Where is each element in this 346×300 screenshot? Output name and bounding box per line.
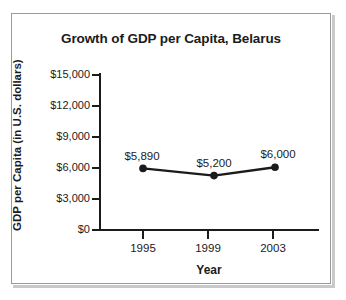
y-tick-9000 — [92, 136, 100, 138]
x-tick-1995 — [142, 231, 144, 239]
y-tick-label-3000: $3,000 — [30, 192, 90, 204]
x-axis-title: Year — [99, 263, 319, 277]
y-tick-12000 — [92, 105, 100, 107]
y-axis-line — [99, 73, 101, 231]
y-axis-title: GDP per Capita (in U.S. dollars) — [11, 71, 23, 231]
data-label-1999: $5,200 — [179, 157, 249, 169]
x-tick-label-1995: 1995 — [118, 242, 168, 254]
data-label-2003: $6,000 — [243, 148, 313, 160]
y-tick-label-0: $0 — [30, 223, 90, 235]
frame-shadow-bottom — [13, 285, 334, 288]
y-tick-label-6000: $6,000 — [30, 161, 90, 173]
frame-shadow-right — [332, 15, 335, 288]
y-tick-6000 — [92, 167, 100, 169]
y-tick-0 — [92, 229, 100, 231]
data-label-1995: $5,890 — [107, 150, 177, 162]
y-tick-label-9000: $9,000 — [30, 130, 90, 142]
x-axis-line — [99, 229, 319, 231]
chart-title: Growth of GDP per Capita, Belarus — [11, 31, 331, 46]
x-tick-label-1999: 1999 — [183, 242, 233, 254]
chart-figure: Growth of GDP per Capita, Belarus $0 $3,… — [0, 0, 346, 300]
y-tick-label-12000: $12,000 — [30, 99, 90, 111]
y-tick-3000 — [92, 198, 100, 200]
y-tick-label-15000: $15,000 — [30, 68, 90, 80]
x-tick-1999 — [207, 231, 209, 239]
x-tick-2003 — [272, 231, 274, 239]
y-tick-15000 — [92, 74, 100, 76]
x-tick-label-2003: 2003 — [248, 242, 298, 254]
